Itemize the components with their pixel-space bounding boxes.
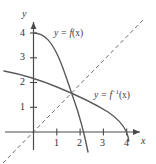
curve-label-f-prefix: y = <box>54 28 69 38</box>
curve-label-f-arg: (x) <box>72 28 83 38</box>
curve-label-finv-exponent: −1 <box>112 88 119 95</box>
y-tick-label-4: 4 <box>20 28 25 38</box>
y-tick-label-2: 2 <box>20 77 25 87</box>
curve-label-finv-arg: (x) <box>119 90 130 100</box>
x-tick-label-4: 4 <box>124 138 129 148</box>
y-tick-label-1: 1 <box>20 102 25 112</box>
x-axis-arrowhead <box>133 129 140 135</box>
x-tick-label-3: 3 <box>100 138 105 148</box>
y-axis-label: y <box>22 9 26 19</box>
curve-label-f: y = f(x) <box>54 29 83 39</box>
x-axis-label: x <box>141 136 145 146</box>
curve-label-f-inverse: y = f−1(x) <box>94 89 130 101</box>
x-tick-label-2: 2 <box>77 138 82 148</box>
y-tick-label-3: 3 <box>20 52 25 62</box>
figure-container: y x 4 3 2 1 1 2 3 4 y = f(x) y = f−1(x) <box>0 0 156 164</box>
curve-label-finv-prefix: y = <box>94 90 109 100</box>
y-axis-arrowhead <box>31 22 37 29</box>
x-tick-label-1: 1 <box>54 138 59 148</box>
